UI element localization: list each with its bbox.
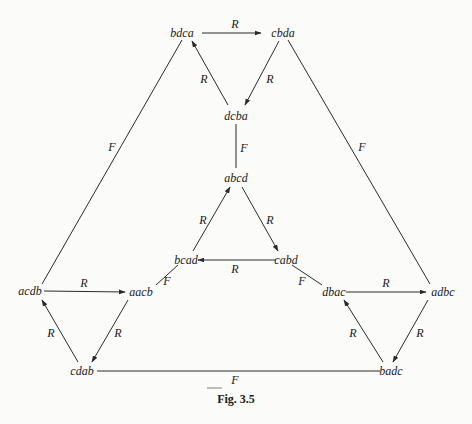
permutation-graph-diagram: bdca cbda dcba abcd bcad cabd acdb aacb … [0, 0, 472, 424]
edge-label-cdab-acdb: R [46, 326, 55, 340]
edge-label-cabd-bcad: R [230, 262, 239, 276]
node-bcad: bcad [174, 253, 198, 267]
edge-label-bcad-abcd: R [198, 213, 207, 227]
node-aacb: aacb [129, 285, 152, 299]
edge-label-badc-dbac: R [348, 326, 357, 340]
figure-caption: Fig. 3.5 [217, 392, 255, 406]
node-dcba: dcba [224, 109, 247, 123]
node-bdca: bdca [170, 26, 193, 40]
edge-label-cdab-badc: F [230, 373, 239, 387]
node-acdb: acdb [18, 284, 41, 298]
edge-dcba-bdca [192, 41, 228, 105]
edge-cbda-dcba [245, 41, 279, 105]
edge-label-aacb-cdab: R [113, 326, 122, 340]
edge-label-dcba-bdca: R [199, 72, 208, 86]
edge-label-dbac-adbc: R [381, 276, 390, 290]
node-cabd: cabd [274, 253, 298, 267]
edge-acdb-aacb [44, 291, 125, 292]
edge-label-bdca-cbda: R [230, 17, 239, 31]
node-adbc: adbc [431, 285, 455, 299]
edge-label-dcba-abcd: F [239, 141, 248, 155]
node-cbda: cbda [271, 26, 294, 40]
node-cdab: cdab [70, 364, 93, 378]
edge-label-adbc-badc: R [415, 326, 424, 340]
edge-aacb-cdab [92, 300, 128, 362]
edge-label-bcad-aacb: F [162, 274, 171, 288]
edge-label-bdca-acdb: F [107, 140, 116, 154]
edge-label-abcd-cabd: R [265, 213, 274, 227]
edge-label-cbda-dcba: R [265, 72, 274, 86]
node-abcd: abcd [224, 171, 248, 185]
node-dbac: dbac [322, 285, 346, 299]
node-badc: badc [379, 364, 403, 378]
edge-cabd-dbac [292, 265, 322, 285]
edge-label-cbda-adbc: F [357, 140, 366, 154]
edge-label-cabd-dbac: F [297, 274, 306, 288]
edge-label-acdb-aacb: R [79, 276, 88, 290]
edge-cbda-adbc [288, 40, 430, 284]
edge-bdca-acdb [42, 40, 182, 284]
